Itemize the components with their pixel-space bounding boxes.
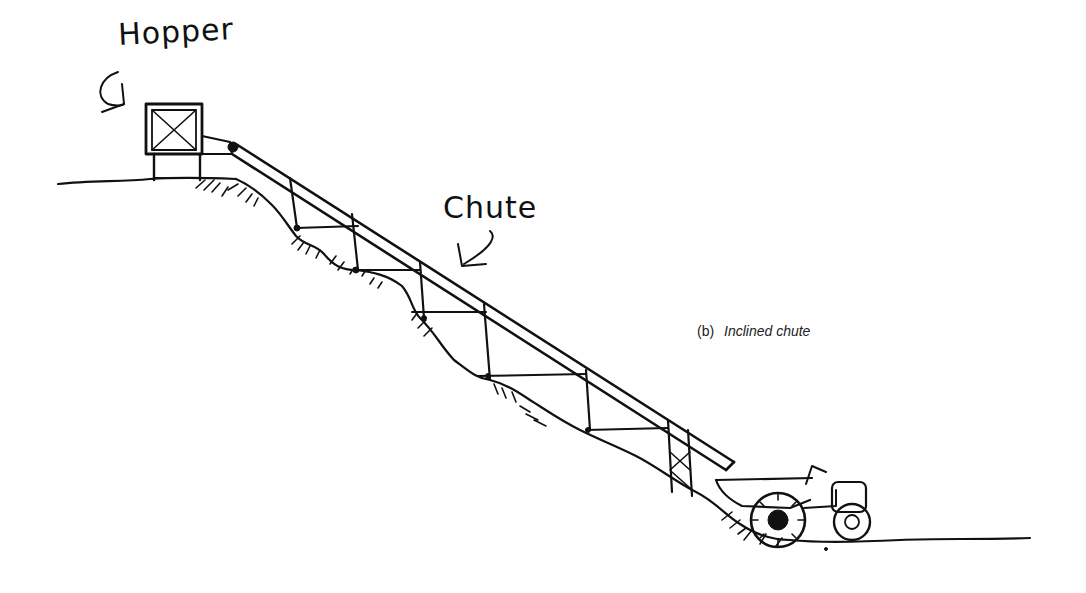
hopper-structure	[146, 104, 238, 180]
caption-id: (b)	[697, 323, 714, 339]
chute-label: Chute	[443, 190, 537, 225]
trestle-supports	[290, 178, 692, 496]
hopper-pointer-arrow	[100, 72, 124, 112]
figure-inclined-chute: Hopper Chute (b) Inclined chute	[0, 0, 1086, 593]
hopper-label: Hopper	[117, 11, 234, 52]
sketch-drawing	[0, 0, 1086, 593]
ground-top	[58, 178, 236, 184]
caption-text: Inclined chute	[724, 323, 810, 339]
tractor-trailer	[716, 466, 870, 551]
figure-caption: (b) Inclined chute	[697, 323, 810, 339]
ground-bottom	[790, 538, 1030, 542]
chute-pointer-arrow	[458, 231, 493, 266]
